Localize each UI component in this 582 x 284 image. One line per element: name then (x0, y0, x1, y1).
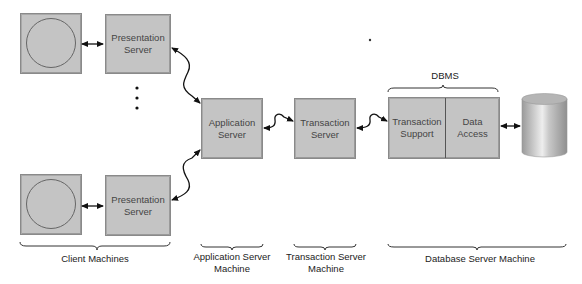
bidirectional-arrow-icon (82, 44, 103, 206)
database-cylinder-icon (522, 94, 567, 158)
group-braces (20, 85, 566, 250)
brace-client (20, 242, 170, 250)
brace-tx (294, 244, 356, 250)
ellipsis-dots (135, 86, 138, 109)
brace-dbms (388, 85, 498, 92)
network-link-icon (264, 114, 387, 128)
brace-db (388, 244, 566, 250)
stray-dot (369, 39, 371, 41)
connectors-layer (0, 0, 582, 284)
network-link-icon (172, 48, 200, 200)
brace-app (201, 244, 263, 250)
